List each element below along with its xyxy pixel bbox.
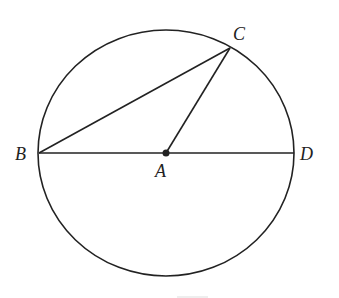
- geometry-diagram: B A C D: [0, 0, 339, 298]
- segment-bc: [39, 48, 230, 153]
- center-point-a: [163, 150, 170, 157]
- label-d: D: [299, 144, 313, 164]
- segment-ac: [166, 48, 230, 153]
- label-a: A: [154, 161, 167, 181]
- label-c: C: [233, 24, 246, 44]
- label-b: B: [15, 144, 26, 164]
